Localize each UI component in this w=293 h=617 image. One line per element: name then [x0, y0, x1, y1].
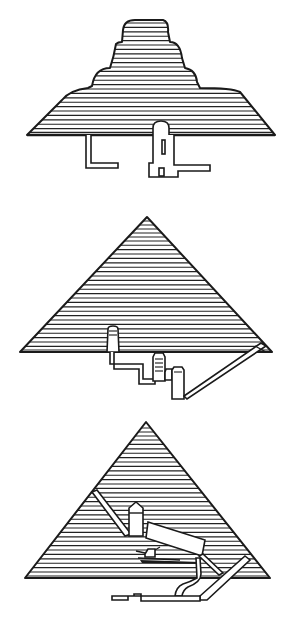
queens-chamber [145, 549, 155, 557]
lower-chamber-2 [165, 369, 172, 380]
middle-pyramid-section [0, 217, 293, 399]
step-pyramid-outline [27, 20, 275, 135]
central-shaft-with-burial-chamber [149, 135, 210, 177]
step-pyramid-section [0, 20, 293, 177]
upper-chamber [107, 326, 119, 352]
burial-chamber-door [159, 168, 164, 176]
central-shaft-domed [153, 121, 169, 135]
hatching-lines [0, 23, 293, 132]
queens-chamber-passage [136, 547, 180, 560]
subterranean-chamber-corridor [112, 594, 200, 601]
kings-chamber [129, 502, 143, 536]
descending-passage-left [86, 135, 118, 168]
hatching-lines [0, 221, 293, 350]
shaft-niche [162, 140, 165, 154]
stepped-corridor [110, 352, 155, 384]
great-pyramid-section [0, 422, 293, 601]
pyramid-cross-sections-figure [0, 0, 293, 617]
